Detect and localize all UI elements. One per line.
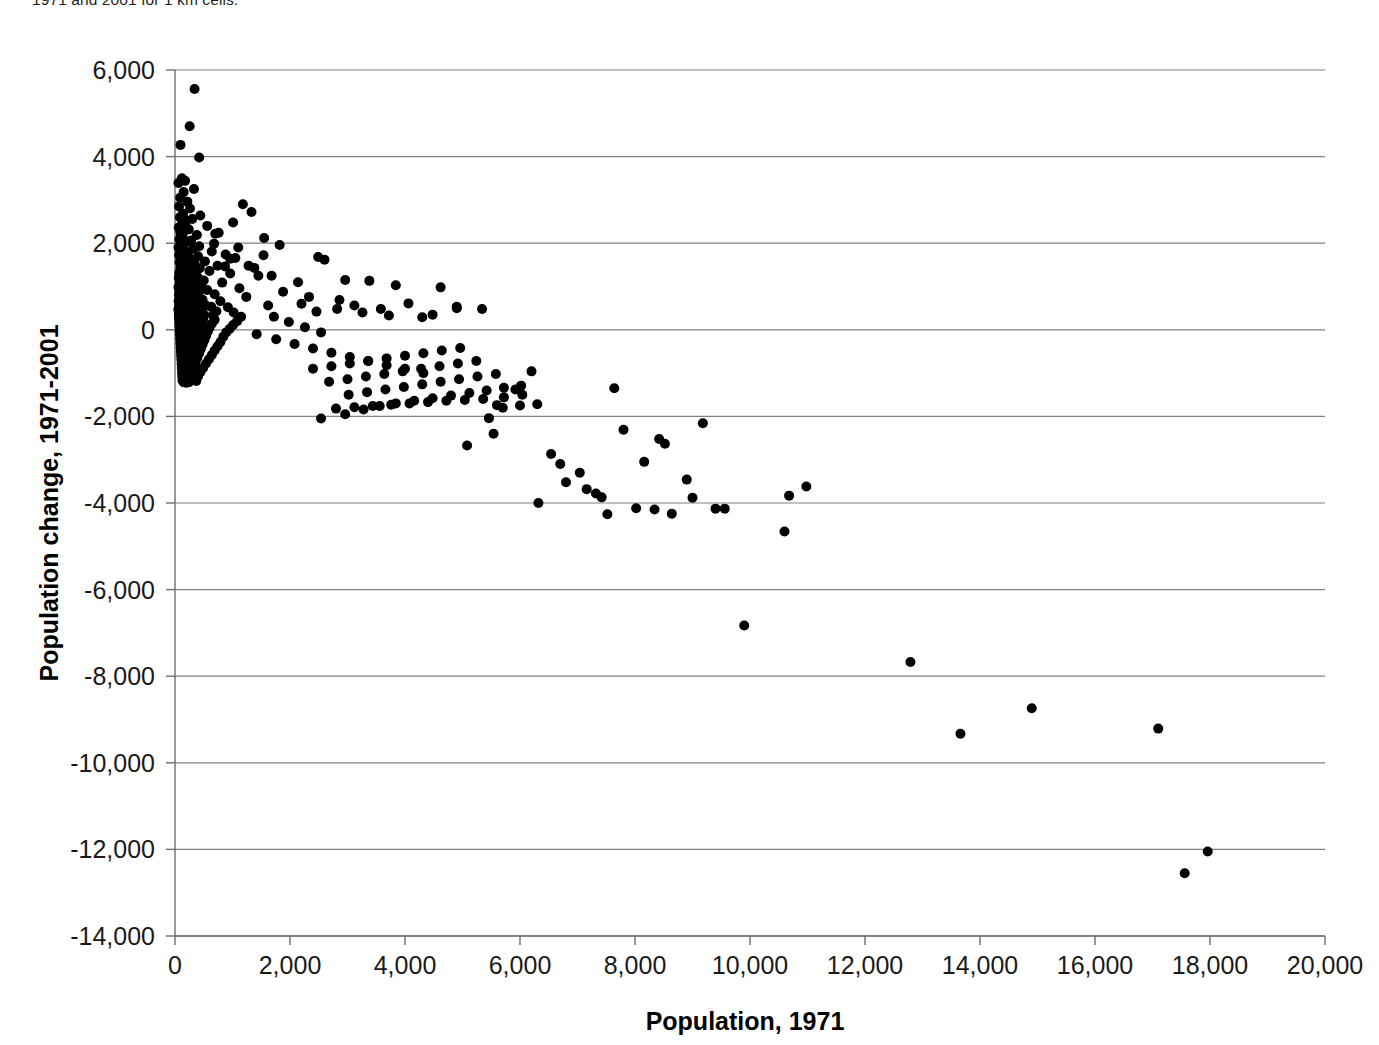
scatter-point [184,377,194,387]
x-tick-label: 20,000 [1287,951,1363,979]
scatter-point [316,327,326,337]
x-tick-label: 8,000 [604,951,667,979]
scatter-point [344,390,354,400]
scatter-point [780,527,790,537]
scatter-point [304,292,314,302]
scatter-point [252,329,262,339]
y-tick-label: -10,000 [70,749,155,777]
scatter-point [209,239,219,249]
scatter-point [489,429,499,439]
scatter-point [650,504,660,514]
scatter-point [259,250,269,260]
scatter-point [711,504,721,514]
scatter-point [471,356,481,366]
y-tick-labels: 6,0004,0002,0000-2,000-4,000-6,000-8,000… [70,56,155,950]
scatter-point [455,343,465,353]
scatter-point [905,657,915,667]
scatter-point [234,283,244,293]
scatter-point [472,372,482,382]
scatter-point [194,152,204,162]
scatter-point [362,387,372,397]
scatter-point [361,372,371,382]
scatter-point [220,262,230,272]
scatter-chart-figure: 6,0004,0002,0000-2,000-4,000-6,000-8,000… [0,0,1379,1045]
scatter-point [405,398,415,408]
scatter-point [682,475,692,485]
scatter-point [784,491,794,501]
scatter-point [293,277,303,287]
scatter-point [267,271,277,281]
scatter-point [259,233,269,243]
scatter-point [214,228,224,238]
scatter-point [478,394,488,404]
scatter-point [343,374,353,384]
x-tick-label: 10,000 [712,951,788,979]
scatter-point [308,343,318,353]
scatter-point [491,369,501,379]
scatter-point [517,390,527,400]
scatter-point [316,414,326,424]
scatter-point [349,301,359,311]
scatter-point [308,364,318,374]
scatter-point [246,207,256,217]
scatter-point [667,509,677,519]
scatter-point [228,217,238,227]
y-tick-label: -4,000 [84,489,155,517]
axis-lines [166,70,1325,945]
chart-canvas: 6,0004,0002,0000-2,000-4,000-6,000-8,000… [0,0,1379,1045]
scatter-point [326,361,336,371]
scatter-point [376,304,386,314]
x-tick-label: 16,000 [1057,951,1133,979]
scatter-point [499,383,509,393]
scatter-point [1180,868,1190,878]
scatter-point [801,482,811,492]
scatter-point [437,346,447,356]
y-axis-title: Population change, 1971-2001 [35,324,63,681]
scatter-point [357,307,367,317]
scatter-point [340,275,350,285]
scatter-point [380,385,390,395]
scatter-point [331,404,341,414]
y-tick-label: 0 [141,316,155,344]
scatter-point [189,184,199,194]
scatter-point [515,401,525,411]
scatter-point [340,409,350,419]
scatter-point [269,312,279,322]
y-tick-label: -12,000 [70,835,155,863]
scatter-point [205,266,215,276]
scatter-point [384,311,394,321]
scatter-point [399,382,409,392]
scatter-point [311,307,321,317]
scatter-point [582,484,592,494]
scatter-point [435,361,445,371]
scatter-point [428,310,438,320]
scatter-point [238,199,248,209]
scatter-point [462,440,472,450]
scatter-point [416,364,426,374]
scatter-point [575,468,585,478]
scatter-point [364,276,374,286]
scatter-point [217,278,227,288]
scatter-point [698,418,708,428]
x-tick-label: 12,000 [827,951,903,979]
x-tick-label: 4,000 [374,951,437,979]
scatter-point [631,503,641,513]
scatter-point [241,292,251,302]
scatter-point [202,221,212,231]
scatter-point [460,395,470,405]
x-tick-label: 6,000 [489,951,552,979]
scatter-point [955,729,965,739]
scatter-point [1153,724,1163,734]
scatter-point [185,121,195,131]
scatter-point [417,379,427,389]
scatter-point [499,392,509,402]
scatter-point [271,334,281,344]
scatter-point [175,140,185,150]
scatter-point [441,396,451,406]
scatter-point [1027,703,1037,713]
scatter-point [334,295,344,305]
scatter-point [533,498,543,508]
x-tick-labels: 02,0004,0006,0008,00010,00012,00014,0001… [168,951,1363,979]
y-tick-label: -2,000 [84,402,155,430]
scatter-point [477,304,487,314]
